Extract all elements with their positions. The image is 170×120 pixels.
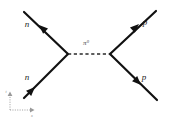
- arrowheads-group: [26, 21, 143, 96]
- feynman-diagram-canvas: n n p p π0 t x: [0, 0, 170, 120]
- pion-charge-superscript: 0: [87, 39, 90, 44]
- pion-label-group: π0: [83, 39, 90, 48]
- leg-upper-right-line: [110, 11, 156, 54]
- label-upper-right-proton: p: [142, 17, 148, 27]
- fermion-legs-group: [24, 11, 157, 100]
- label-upper-left-neutron: n: [25, 19, 30, 29]
- leg-lower-right-line: [110, 54, 157, 100]
- pion-label: π0: [83, 39, 90, 48]
- label-lower-right-proton: p: [141, 72, 147, 82]
- feynman-diagram-svg: n n p p π0 t x: [0, 0, 170, 120]
- axis-vertical-arrowhead-icon: [8, 92, 13, 97]
- axis-horizontal-label: x: [30, 113, 33, 118]
- leg-upper-left-line: [24, 12, 68, 54]
- axis-horizontal-arrowhead-icon: [30, 108, 35, 113]
- label-lower-left-neutron: n: [25, 72, 30, 82]
- axis-vertical-label: t: [5, 89, 7, 94]
